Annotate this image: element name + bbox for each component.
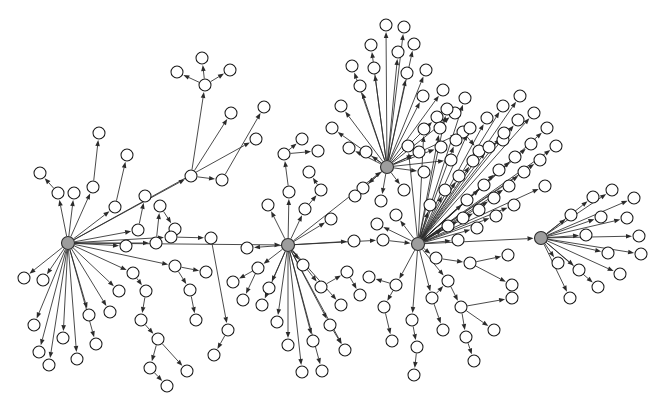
leaf-node[interactable] <box>614 268 626 280</box>
leaf-node[interactable] <box>483 141 495 153</box>
leaf-node[interactable] <box>325 213 337 225</box>
leaf-node[interactable] <box>144 362 156 374</box>
leaf-node[interactable] <box>171 66 183 78</box>
leaf-node[interactable] <box>113 285 125 297</box>
leaf-node[interactable] <box>380 19 392 31</box>
leaf-node[interactable] <box>278 148 290 160</box>
leaf-node[interactable] <box>120 240 132 252</box>
leaf-node[interactable] <box>326 122 338 134</box>
leaf-node[interactable] <box>296 366 308 378</box>
leaf-node[interactable] <box>227 276 239 288</box>
leaf-node[interactable] <box>360 146 372 158</box>
leaf-node[interactable] <box>83 309 95 321</box>
leaf-node[interactable] <box>222 324 234 336</box>
leaf-node[interactable] <box>132 224 144 236</box>
leaf-node[interactable] <box>34 167 46 179</box>
leaf-node[interactable] <box>406 314 418 326</box>
leaf-node[interactable] <box>442 220 454 232</box>
leaf-node[interactable] <box>435 141 447 153</box>
leaf-node[interactable] <box>413 146 425 158</box>
leaf-node[interactable] <box>28 319 40 331</box>
leaf-node[interactable] <box>467 155 479 167</box>
leaf-node[interactable] <box>541 122 553 134</box>
leaf-node[interactable] <box>283 186 295 198</box>
leaf-node[interactable] <box>346 60 358 72</box>
leaf-node[interactable] <box>390 209 402 221</box>
leaf-node[interactable] <box>441 103 453 115</box>
leaf-node[interactable] <box>154 200 166 212</box>
leaf-node[interactable] <box>426 292 438 304</box>
leaf-node[interactable] <box>450 134 462 146</box>
leaf-node[interactable] <box>139 190 151 202</box>
leaf-node[interactable] <box>71 353 83 365</box>
leaf-node[interactable] <box>437 324 449 336</box>
leaf-node[interactable] <box>464 257 476 269</box>
hub-node[interactable] <box>412 238 425 251</box>
leaf-node[interactable] <box>256 299 268 311</box>
leaf-node[interactable] <box>282 339 294 351</box>
leaf-node[interactable] <box>152 333 164 345</box>
leaf-node[interactable] <box>208 349 220 361</box>
leaf-node[interactable] <box>299 203 311 215</box>
leaf-node[interactable] <box>339 344 351 356</box>
leaf-node[interactable] <box>587 191 599 203</box>
leaf-node[interactable] <box>258 101 270 113</box>
leaf-node[interactable] <box>592 281 604 293</box>
leaf-node[interactable] <box>199 79 211 91</box>
leaf-node[interactable] <box>417 90 429 102</box>
leaf-node[interactable] <box>478 179 490 191</box>
leaf-node[interactable] <box>502 249 514 261</box>
leaf-node[interactable] <box>348 235 360 247</box>
hub-node[interactable] <box>282 239 295 252</box>
leaf-node[interactable] <box>498 127 510 139</box>
leaf-node[interactable] <box>316 365 328 377</box>
leaf-node[interactable] <box>453 170 465 182</box>
leaf-node[interactable] <box>464 122 476 134</box>
leaf-node[interactable] <box>528 107 540 119</box>
leaf-node[interactable] <box>196 52 208 64</box>
leaf-node[interactable] <box>205 232 217 244</box>
leaf-node[interactable] <box>224 64 236 76</box>
leaf-node[interactable] <box>506 292 518 304</box>
leaf-node[interactable] <box>349 190 361 202</box>
leaf-node[interactable] <box>398 21 410 33</box>
leaf-node[interactable] <box>493 164 505 176</box>
leaf-node[interactable] <box>127 267 139 279</box>
leaf-node[interactable] <box>335 100 347 112</box>
leaf-node[interactable] <box>368 62 380 74</box>
leaf-node[interactable] <box>237 294 249 306</box>
leaf-node[interactable] <box>363 271 375 283</box>
leaf-node[interactable] <box>445 154 457 166</box>
leaf-node[interactable] <box>185 170 197 182</box>
leaf-node[interactable] <box>534 154 546 166</box>
leaf-node[interactable] <box>506 279 518 291</box>
leaf-node[interactable] <box>386 335 398 347</box>
leaf-node[interactable] <box>420 64 432 76</box>
leaf-node[interactable] <box>181 365 193 377</box>
leaf-node[interactable] <box>307 335 319 347</box>
hub-node[interactable] <box>62 237 75 250</box>
leaf-node[interactable] <box>37 274 49 286</box>
leaf-node[interactable] <box>565 209 577 221</box>
leaf-node[interactable] <box>471 222 483 234</box>
leaf-node[interactable] <box>488 324 500 336</box>
leaf-node[interactable] <box>390 279 402 291</box>
leaf-node[interactable] <box>402 140 414 152</box>
leaf-node[interactable] <box>518 166 530 178</box>
leaf-node[interactable] <box>165 231 177 243</box>
leaf-node[interactable] <box>539 180 551 192</box>
leaf-node[interactable] <box>442 275 454 287</box>
leaf-node[interactable] <box>271 316 283 328</box>
leaf-node[interactable] <box>263 282 275 294</box>
leaf-node[interactable] <box>315 281 327 293</box>
leaf-node[interactable] <box>459 92 471 104</box>
leaf-node[interactable] <box>354 80 366 92</box>
leaf-node[interactable] <box>408 38 420 50</box>
leaf-node[interactable] <box>411 341 423 353</box>
leaf-node[interactable] <box>365 39 377 51</box>
leaf-node[interactable] <box>468 355 480 367</box>
leaf-node[interactable] <box>633 230 645 242</box>
leaf-node[interactable] <box>190 314 202 326</box>
leaf-node[interactable] <box>437 84 449 96</box>
leaf-node[interactable] <box>169 260 181 272</box>
